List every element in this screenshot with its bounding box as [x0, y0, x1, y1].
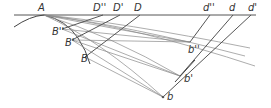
label-D: D: [134, 2, 142, 13]
label-d2: d'': [203, 2, 215, 13]
segment-b-b: [85, 57, 163, 97]
main-curve: [14, 15, 90, 64]
label-B2: B'': [52, 26, 64, 37]
point-b: [162, 96, 165, 99]
label-D1: D': [113, 2, 123, 13]
geometric-diagram: A D'' D' D d'' d d' B'' B' B b'' b' b: [0, 0, 271, 108]
cross-segment: [72, 40, 163, 97]
label-d1: d': [248, 2, 257, 13]
label-A: A: [37, 2, 45, 13]
line-d2-b2: [190, 15, 210, 42]
label-b: b: [167, 91, 173, 102]
line-d1-b: [163, 15, 251, 97]
label-b2: b'': [188, 44, 200, 55]
label-b1: b': [184, 73, 193, 84]
label-B1: B': [65, 37, 75, 48]
label-B: B: [81, 53, 88, 64]
label-D2: D'': [93, 2, 106, 13]
label-d: d: [229, 2, 236, 13]
